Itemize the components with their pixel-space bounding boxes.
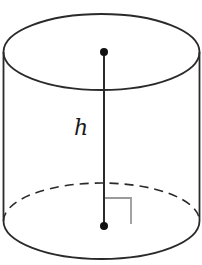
- height-label: h: [74, 117, 88, 139]
- top-center-point: [100, 48, 108, 56]
- bottom-back-dashed-arc: [4, 183, 200, 221]
- right-angle-marker: [104, 198, 131, 224]
- cylinder-diagram: [0, 0, 202, 265]
- bottom-center-point: [100, 222, 108, 230]
